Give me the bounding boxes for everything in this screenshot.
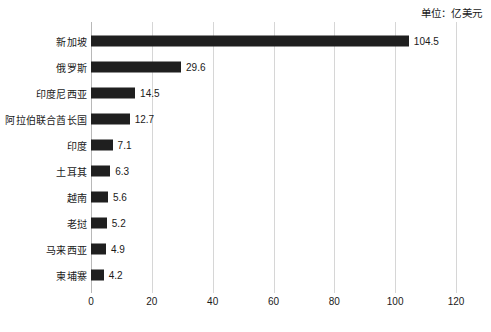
- bar-row: 马来西亚4.9: [91, 236, 456, 262]
- bar: [91, 62, 181, 73]
- category-label: 老挝: [67, 216, 87, 231]
- bar-row: 柬埔寨4.2: [91, 262, 456, 288]
- bar-row: 越南5.6: [91, 184, 456, 210]
- bar-row: 俄罗斯29.6: [91, 54, 456, 80]
- bar-value-label: 12.7: [135, 114, 154, 125]
- bar: [91, 166, 110, 177]
- bar-rows: 新加坡104.5俄罗斯29.6印度尼西亚14.5阿拉伯联合酋长国12.7印度7.…: [91, 22, 456, 293]
- category-label: 印度: [67, 138, 87, 153]
- plot-area: 新加坡104.5俄罗斯29.6印度尼西亚14.5阿拉伯联合酋长国12.7印度7.…: [91, 22, 456, 293]
- category-label: 阿拉伯联合酋长国: [5, 112, 87, 127]
- x-tick-label: 20: [146, 296, 157, 307]
- bar-row: 老挝5.2: [91, 210, 456, 236]
- bar-value-label: 29.6: [186, 62, 205, 73]
- unit-annotation: 单位：亿美元: [421, 5, 482, 20]
- x-tick-label: 120: [448, 296, 465, 307]
- category-label: 柬埔寨: [56, 268, 87, 283]
- bar-value-label: 5.2: [112, 218, 126, 229]
- x-tick-label: 40: [207, 296, 218, 307]
- x-tick-label: 100: [387, 296, 404, 307]
- category-label: 印度尼西亚: [36, 86, 87, 101]
- bar: [91, 218, 107, 229]
- x-tick-label: 0: [88, 296, 94, 307]
- bar-value-label: 6.3: [115, 166, 129, 177]
- gridline-120: [456, 22, 457, 293]
- bar: [91, 192, 108, 203]
- bar-row: 印度尼西亚14.5: [91, 80, 456, 106]
- bar: [91, 114, 130, 125]
- bar-row: 印度7.1: [91, 132, 456, 158]
- category-label: 越南: [67, 190, 87, 205]
- bar-value-label: 104.5: [414, 36, 439, 47]
- bar: [91, 88, 135, 99]
- category-label: 新加坡: [56, 34, 87, 49]
- bar-value-label: 4.2: [109, 270, 123, 281]
- bar: [91, 270, 104, 281]
- bar: [91, 140, 113, 151]
- category-label: 俄罗斯: [56, 60, 87, 75]
- category-label: 土耳其: [56, 164, 87, 179]
- bar: [91, 36, 409, 47]
- x-tick-label: 80: [329, 296, 340, 307]
- bar-value-label: 4.9: [111, 244, 125, 255]
- bar-row: 阿拉伯联合酋长国12.7: [91, 106, 456, 132]
- bar-value-label: 5.6: [113, 192, 127, 203]
- bar-value-label: 14.5: [140, 88, 159, 99]
- bar-chart: 单位：亿美元 新加坡104.5俄罗斯29.6印度尼西亚14.5阿拉伯联合酋长国1…: [0, 0, 491, 332]
- x-tick-label: 60: [268, 296, 279, 307]
- bar-row: 新加坡104.5: [91, 28, 456, 54]
- bar: [91, 244, 106, 255]
- bar-value-label: 7.1: [118, 140, 132, 151]
- x-axis-tick-labels: 020406080100120: [91, 296, 456, 314]
- bar-row: 土耳其6.3: [91, 158, 456, 184]
- category-label: 马来西亚: [46, 242, 87, 257]
